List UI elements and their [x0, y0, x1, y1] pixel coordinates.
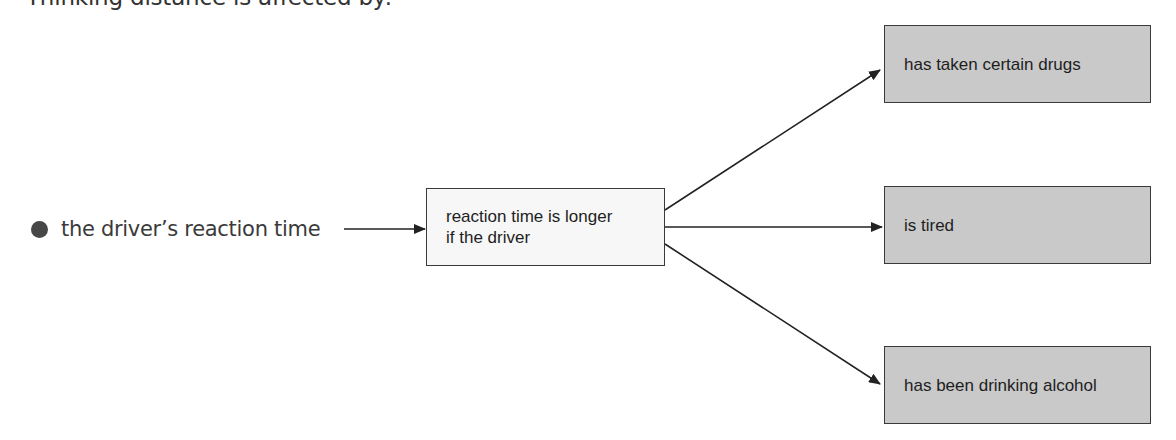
center-box-line-2: if the driver [446, 227, 612, 248]
outcome-box-tired: is tired [884, 186, 1151, 264]
outcome-label: is tired [904, 215, 954, 236]
outcome-label: has taken certain drugs [904, 54, 1081, 75]
center-box: reaction time is longer if the driver [426, 188, 665, 266]
outcome-box-drugs: has taken certain drugs [884, 25, 1151, 103]
outcome-box-alcohol: has been drinking alcohol [884, 346, 1151, 424]
arrow-to-alcohol [665, 244, 880, 384]
outcome-label: has been drinking alcohol [904, 375, 1097, 396]
center-box-line-1: reaction time is longer [446, 206, 612, 227]
arrow-to-drugs [665, 70, 880, 210]
